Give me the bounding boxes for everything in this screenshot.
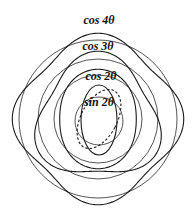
- label-cos-4theta: cos 4θ: [83, 13, 115, 27]
- mode-curves: [12, 33, 183, 204]
- label-cos-2theta: cos 2θ: [85, 69, 117, 83]
- mode-curve-sin2: [68, 82, 130, 155]
- label-cos-3theta: cos 3θ: [82, 39, 114, 53]
- label-sin-2theta: sin 2θ: [83, 95, 115, 109]
- mode-shapes-diagram: cos 4θ cos 3θ cos 2θ sin 2θ: [0, 0, 196, 219]
- reference-circle-cos4: [19, 40, 177, 198]
